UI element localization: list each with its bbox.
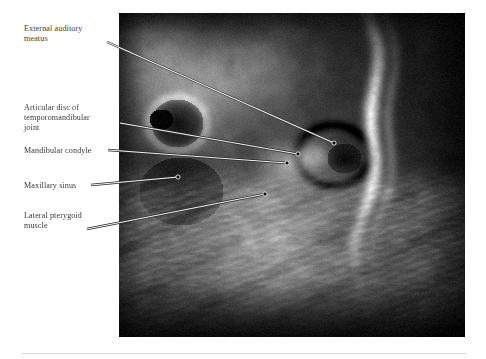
label-mandibular-condyle: Mandibular condyle	[24, 146, 124, 156]
mri-image-panel	[119, 13, 465, 337]
label-external-auditory-meatus: External auditory meatus	[24, 24, 116, 44]
label-maxillary-sinus: Maxillary sinus	[24, 181, 124, 191]
footer-rule	[22, 353, 466, 354]
mri-figure: External auditory meatus Articular disc …	[0, 0, 486, 359]
label-lateral-pterygoid-muscle: Lateral pterygoid muscle	[24, 211, 120, 231]
mri-image	[119, 13, 465, 337]
label-articular-disc: Articular disc of temporomandibular join…	[24, 103, 122, 134]
